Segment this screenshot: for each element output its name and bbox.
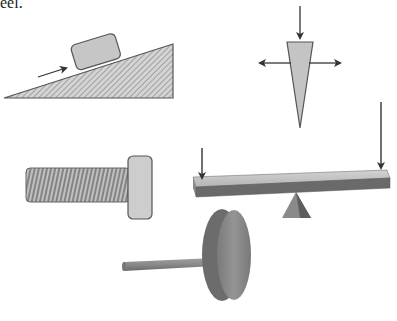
inclined-plane	[4, 33, 173, 98]
screw	[26, 156, 152, 219]
simple-machines-diagram	[0, 0, 397, 321]
wedge-shape	[287, 42, 313, 128]
screw-head	[128, 156, 152, 219]
screw-thread	[26, 168, 130, 202]
wheel-face	[217, 210, 251, 300]
axle	[124, 258, 214, 271]
wedge	[260, 6, 340, 128]
push-arrow-icon	[38, 68, 66, 77]
lever	[193, 102, 390, 218]
wheel-and-axle	[122, 209, 251, 301]
